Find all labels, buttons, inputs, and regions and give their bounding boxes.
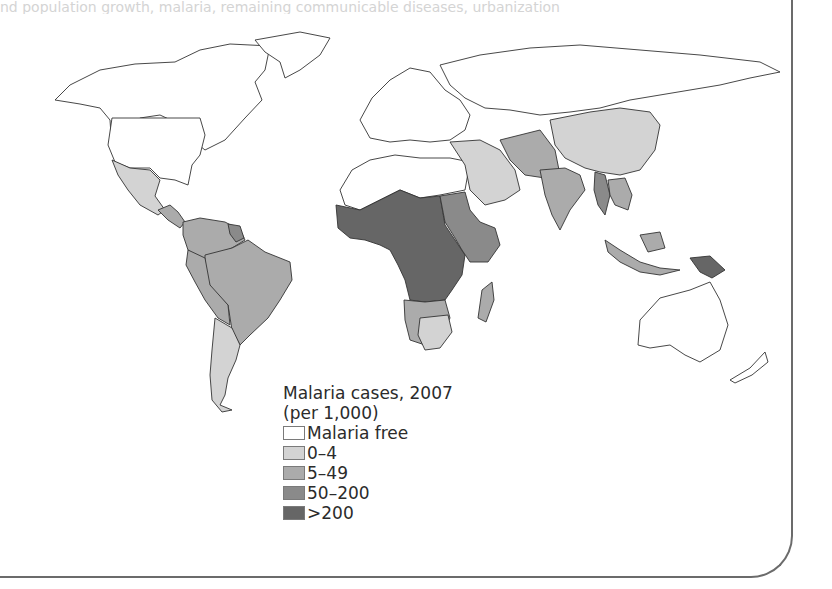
region-russia: [440, 45, 780, 115]
legend-label: Malaria free: [307, 423, 408, 443]
legend-swatch: [283, 426, 305, 440]
region-australia: [638, 282, 728, 362]
region-china: [550, 108, 660, 175]
legend-swatch: [283, 466, 305, 480]
region-myanmar: [594, 172, 610, 215]
legend-label: 0–4: [307, 443, 337, 463]
map-legend: Malaria cases, 2007 (per 1,000) Malaria …: [283, 383, 453, 523]
legend-label: 50–200: [307, 483, 370, 503]
legend-item-50-200: 50–200: [283, 483, 453, 503]
region-india: [540, 168, 585, 230]
region-new-zealand: [730, 352, 768, 383]
region-south-africa: [418, 315, 452, 350]
legend-title: Malaria cases, 2007: [283, 383, 453, 403]
legend-subtitle: (per 1,000): [283, 403, 453, 423]
region-indonesia: [605, 232, 680, 275]
legend-swatch: [283, 486, 305, 500]
region-southeast-asia: [608, 178, 632, 210]
legend-swatch: [283, 446, 305, 460]
legend-label: 5–49: [307, 463, 348, 483]
legend-swatch: [283, 506, 305, 520]
legend-item-0-4: 0–4: [283, 443, 453, 463]
region-central-america: [158, 205, 185, 228]
legend-item-malaria-free: Malaria free: [283, 423, 453, 443]
region-papua-new-guinea: [690, 256, 725, 278]
legend-label: >200: [307, 503, 354, 523]
legend-item-5-49: 5–49: [283, 463, 453, 483]
legend-item-over-200: >200: [283, 503, 453, 523]
region-madagascar: [478, 282, 494, 322]
